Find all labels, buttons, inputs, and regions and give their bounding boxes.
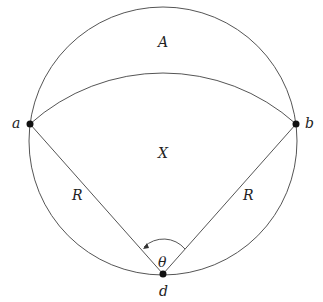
label-angle-theta: θ (158, 254, 167, 270)
radius-line-left (30, 124, 163, 274)
point-d (160, 271, 167, 278)
point-b (293, 121, 300, 128)
radius-line-right (163, 124, 296, 274)
point-a (27, 121, 34, 128)
label-radius-left: R (71, 187, 83, 203)
inner-arc (30, 73, 296, 124)
label-region-x: X (157, 145, 169, 161)
label-point-d: d (159, 283, 168, 299)
label-region-a: A (156, 34, 168, 50)
diagram-canvas: A X a b d R R θ (0, 0, 323, 302)
label-point-a: a (12, 115, 20, 131)
angle-arc (144, 239, 185, 249)
label-point-b: b (305, 115, 314, 131)
label-radius-right: R (242, 187, 254, 203)
